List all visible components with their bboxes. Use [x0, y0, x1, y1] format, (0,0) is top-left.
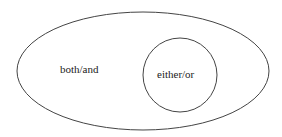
- outer-label: both/and: [60, 63, 99, 75]
- diagram-canvas: both/and either/or: [0, 0, 282, 137]
- venn-diagram: both/and either/or: [0, 0, 282, 137]
- inner-label: either/or: [157, 68, 195, 80]
